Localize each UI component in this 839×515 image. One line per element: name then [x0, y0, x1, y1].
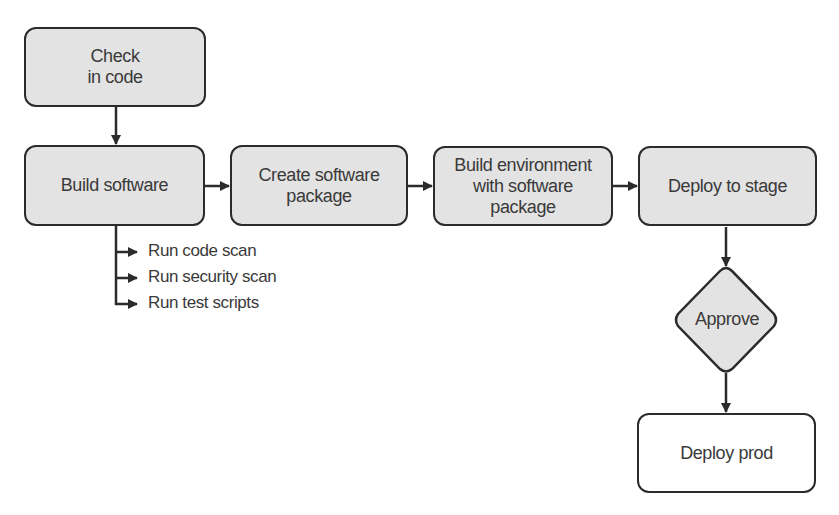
- node-label: Check in code: [87, 46, 142, 88]
- node-check-in-code: Check in code: [24, 27, 206, 107]
- approve-label: Approve: [676, 308, 778, 330]
- substep-run-test-scripts: Run test scripts: [148, 293, 259, 313]
- node-label: Build software: [61, 175, 168, 196]
- substep-run-security-scan: Run security scan: [148, 267, 276, 287]
- node-create-software-package: Create software package: [230, 145, 408, 226]
- node-label: Create software package: [258, 165, 379, 207]
- node-label: Build environment with software package: [454, 155, 591, 218]
- node-build-software: Build software: [24, 145, 205, 226]
- substep-run-code-scan: Run code scan: [148, 241, 256, 261]
- node-build-environment: Build environment with software package: [433, 146, 613, 226]
- node-deploy-to-stage: Deploy to stage: [638, 146, 817, 226]
- node-label: Deploy prod: [680, 443, 773, 464]
- node-deploy-prod: Deploy prod: [637, 413, 816, 493]
- node-label: Deploy to stage: [668, 176, 787, 197]
